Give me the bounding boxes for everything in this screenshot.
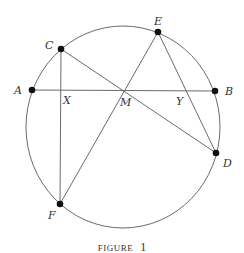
label-m: M bbox=[119, 96, 132, 109]
geometry-figure: A B C D E F X M Y FIGURE 1 bbox=[0, 0, 244, 253]
point-c bbox=[58, 46, 65, 53]
figure-caption: FIGURE 1 bbox=[98, 237, 147, 253]
point-a bbox=[29, 87, 36, 94]
label-c: C bbox=[45, 39, 54, 52]
point-f bbox=[57, 201, 64, 208]
label-x: X bbox=[62, 94, 72, 107]
circle bbox=[26, 26, 220, 228]
label-f: F bbox=[47, 209, 56, 222]
label-e: E bbox=[153, 15, 162, 28]
point-d bbox=[213, 150, 220, 157]
caption-word: FIGURE bbox=[98, 243, 134, 253]
label-b: B bbox=[224, 85, 233, 98]
caption-number: 1 bbox=[140, 240, 146, 253]
chord-ed bbox=[158, 32, 216, 153]
label-y: Y bbox=[176, 95, 185, 108]
point-e bbox=[155, 29, 162, 36]
label-d: D bbox=[222, 157, 232, 170]
chord-cf bbox=[60, 49, 61, 204]
label-a: A bbox=[13, 84, 22, 97]
point-b bbox=[212, 88, 219, 95]
chord-cd bbox=[61, 49, 216, 153]
